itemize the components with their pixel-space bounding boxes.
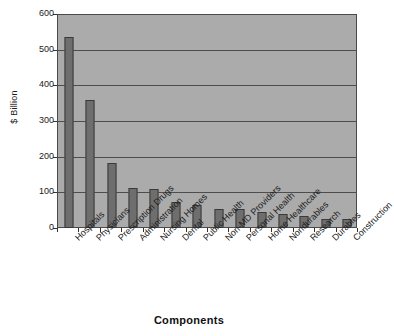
bar-slot <box>101 15 122 228</box>
bar-slot <box>315 15 336 228</box>
bar-slot <box>58 15 79 228</box>
x-axis-title: Components <box>0 314 378 326</box>
y-axis-tick-label: 500 <box>14 45 54 54</box>
x-axis-tick <box>207 228 208 232</box>
bar-slot <box>337 15 358 228</box>
bar[interactable] <box>150 189 159 228</box>
bar[interactable] <box>107 163 116 228</box>
bar-slot <box>79 15 100 228</box>
bar[interactable] <box>64 37 73 228</box>
x-axis-tick <box>57 228 58 232</box>
bar-slot <box>251 15 272 228</box>
x-axis-tick <box>357 228 358 232</box>
bar[interactable] <box>343 219 352 228</box>
x-axis-tick <box>228 228 229 232</box>
x-axis-tick <box>293 228 294 232</box>
x-axis-tick <box>271 228 272 232</box>
x-axis-tick <box>250 228 251 232</box>
bar[interactable] <box>278 214 287 228</box>
y-axis-tick-label: 0 <box>14 223 54 232</box>
bar-slot <box>229 15 250 228</box>
y-axis-tick-label: 300 <box>14 116 54 125</box>
bar[interactable] <box>236 209 245 228</box>
x-axis-tick <box>186 228 187 232</box>
bars-group <box>58 15 356 228</box>
bar[interactable] <box>193 205 202 228</box>
x-axis-tick <box>314 228 315 232</box>
bar[interactable] <box>86 100 95 228</box>
x-axis-tick <box>164 228 165 232</box>
bar-slot <box>122 15 143 228</box>
y-axis-tick-label: 400 <box>14 80 54 89</box>
bar[interactable] <box>214 209 223 228</box>
bar-slot <box>187 15 208 228</box>
bar[interactable] <box>321 219 330 228</box>
x-axis-tick-label: Construction <box>352 201 394 243</box>
bar-slot <box>165 15 186 228</box>
bar[interactable] <box>128 188 137 228</box>
y-axis-tick-label: 100 <box>14 187 54 196</box>
y-axis-tick-label: 200 <box>14 152 54 161</box>
x-axis-tick <box>100 228 101 232</box>
x-axis-tick <box>336 228 337 232</box>
bar[interactable] <box>300 216 309 228</box>
y-axis-tick-label: 600 <box>14 9 54 18</box>
bar-slot <box>208 15 229 228</box>
x-axis-tick <box>121 228 122 232</box>
x-axis-tick <box>143 228 144 232</box>
bar-slot <box>144 15 165 228</box>
bar-slot <box>294 15 315 228</box>
bar[interactable] <box>257 212 266 228</box>
bar-slot <box>272 15 293 228</box>
x-axis-tick <box>78 228 79 232</box>
bar[interactable] <box>171 202 180 228</box>
